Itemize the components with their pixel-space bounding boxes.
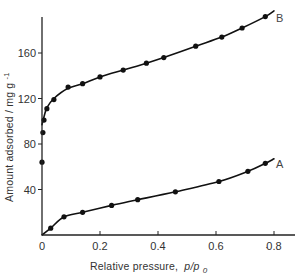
y-axis-ticks: 4080120160 bbox=[18, 47, 42, 196]
y-axis-title: Amount adsorbed / mg g -1 bbox=[2, 72, 15, 202]
data-point bbox=[80, 210, 85, 215]
data-point bbox=[144, 61, 149, 66]
x-tick-label: 0.2 bbox=[92, 240, 107, 252]
x-tick-label: 0.4 bbox=[150, 240, 165, 252]
data-point bbox=[263, 161, 268, 166]
data-point bbox=[51, 97, 56, 102]
data-point bbox=[245, 169, 250, 174]
y-axis-title-main: Amount adsorbed / mg g bbox=[3, 83, 15, 202]
data-point bbox=[109, 203, 114, 208]
x-axis-title-main: Relative pressure, bbox=[90, 260, 178, 272]
data-point bbox=[193, 44, 198, 49]
data-point bbox=[48, 226, 53, 231]
adsorption-isotherm-chart: 00.20.40.60.8 4080120160 Relative pressu… bbox=[0, 0, 302, 276]
stray-mark: · bbox=[265, 241, 269, 253]
data-point bbox=[240, 25, 245, 30]
series-curve-a bbox=[42, 159, 274, 235]
series-label-a: A bbox=[276, 158, 284, 170]
x-axis-title-variable: p/p bbox=[183, 260, 199, 272]
data-point bbox=[135, 197, 140, 202]
data-point bbox=[40, 130, 45, 135]
series-b bbox=[39, 11, 274, 165]
axes: 00.20.40.60.8 4080120160 bbox=[18, 17, 295, 252]
x-tick-label: 0 bbox=[39, 240, 45, 252]
y-tick-label: 160 bbox=[18, 47, 36, 59]
y-tick-label: 120 bbox=[18, 93, 36, 105]
plot-area bbox=[39, 11, 274, 235]
y-axis-title-superscript: -1 bbox=[2, 72, 11, 79]
series-a bbox=[42, 159, 274, 235]
y-tick-label: 40 bbox=[24, 184, 36, 196]
data-point bbox=[263, 14, 268, 19]
data-point bbox=[61, 214, 66, 219]
data-point bbox=[121, 68, 126, 73]
data-point bbox=[80, 81, 85, 86]
x-axis-title-subscript: 0 bbox=[203, 266, 208, 275]
series-curve-b bbox=[42, 11, 274, 125]
data-point bbox=[216, 179, 221, 184]
data-point bbox=[44, 106, 49, 111]
x-tick-label: 0.6 bbox=[208, 240, 223, 252]
data-point bbox=[97, 74, 102, 79]
data-point bbox=[219, 35, 224, 40]
series-label-b: B bbox=[276, 12, 283, 24]
x-axis-ticks: 00.20.40.60.8 bbox=[39, 231, 282, 252]
data-point bbox=[161, 55, 166, 60]
data-point bbox=[66, 85, 71, 90]
x-axis-title: Relative pressure, p/p 0 bbox=[90, 260, 208, 275]
data-point bbox=[173, 189, 178, 194]
y-tick-label: 80 bbox=[24, 138, 36, 150]
